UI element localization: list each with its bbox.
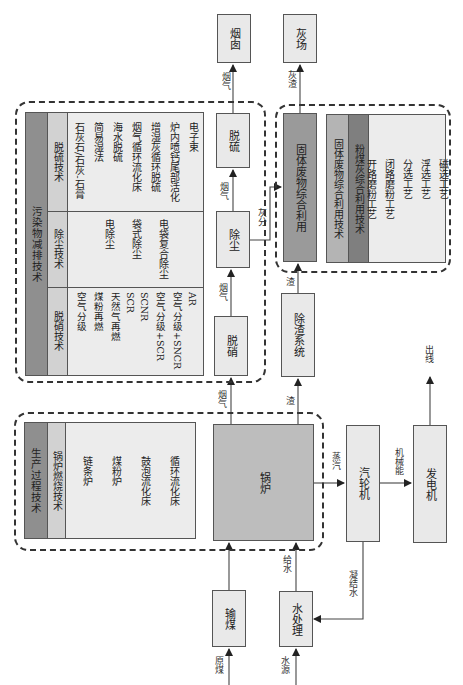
list-item: 袋式除尘 <box>128 219 143 279</box>
ash-yard-box: 灰场 <box>283 14 317 63</box>
coal-transport-box: 输煤 <box>212 590 246 647</box>
list-item: 石灰石/石灰-石膏 <box>71 122 86 202</box>
pollutant-reduction-table: 污染物减排技术 脱硫技术 石灰石/石灰-石膏 简易湿法 海水脱硫 烟气循环流化床… <box>25 112 204 376</box>
steam-label: 蒸汽 <box>330 452 343 470</box>
list-item: AR <box>187 292 198 369</box>
solid-waste-table-title: 固体废物综合利用技术 <box>327 115 349 262</box>
list-item: 炉内喷钙尾部活化 <box>166 122 181 202</box>
flue-gas-label: 烟气 <box>218 182 231 200</box>
output-line-label: 出线 <box>423 345 436 363</box>
list-item: 空气分级+SCR <box>153 292 167 369</box>
water-source-label: 水源 <box>279 656 292 674</box>
list-item: 煤粉炉 <box>109 456 124 506</box>
list-item: 浮选工艺 <box>418 159 433 219</box>
list-item: 简易湿法 <box>90 122 105 202</box>
pollutant-table-title-text: 污染物减排技术 <box>29 206 44 283</box>
mechanical-energy-label: 机械能 <box>393 448 406 475</box>
desulfurization-tech-list: 石灰石/石灰-石膏 简易湿法 海水脱硫 烟气循环流化床 增湿灰循环脱硫 炉内喷钙… <box>68 113 203 211</box>
denitrification-tech-list: 空气分级 煤粉再燃 天然气再燃 SCR SCNR 空气分级+SCR 空气分级+S… <box>68 287 203 375</box>
pollutant-table-title: 污染物减排技术 <box>26 113 48 375</box>
list-item: 电袋复合除尘 <box>155 219 170 279</box>
dedusting-box: 除尘 <box>216 211 250 268</box>
denitrification-tech-header: 脱硝技术 <box>48 287 68 375</box>
dedusting-tech-list: 电除尘 袋式除尘 电袋复合除尘 <box>68 211 203 287</box>
list-item: 循环流化床 <box>167 456 182 506</box>
ash-slag-label: 灰渣 <box>286 70 299 88</box>
fly-ash-tech-list: 开路磨粉工艺 闭路磨粉工艺 分选工艺 浮选工艺 磁选工艺 <box>369 115 445 262</box>
denitrification-box: 脱硝 <box>214 316 248 376</box>
list-item: SCNR <box>139 292 150 369</box>
ash-label: 灰分 <box>256 208 269 226</box>
production-table-title: 生产过程技术 <box>25 423 48 538</box>
generator-box: 发电机 <box>413 425 447 543</box>
list-item: 鼓泡流化床 <box>138 456 153 506</box>
chimney-box: 烟囱 <box>217 14 251 63</box>
desulfurization-tech-header: 脱硫技术 <box>48 113 68 211</box>
list-item: 煤粉再燃 <box>91 292 105 369</box>
list-item: 空气分级+SNCR <box>170 292 184 369</box>
water-treatment-box: 水处理 <box>279 591 313 647</box>
list-item: 电子束 <box>185 122 200 202</box>
list-item: 烟气循环流化床 <box>128 122 143 202</box>
list-item: 天然气再燃 <box>108 292 122 369</box>
boiler-box: 锅炉 <box>213 424 314 541</box>
list-item: 开路磨粉工艺 <box>364 159 379 219</box>
list-item: 增湿灰循环脱硫 <box>147 122 162 202</box>
slag-label: 渣 <box>284 396 297 405</box>
list-item: 分选工艺 <box>400 159 415 219</box>
solid-waste-utilization-box: 固体废物综合利用 <box>283 113 317 262</box>
dedusting-tech-header: 除尘技术 <box>48 211 68 287</box>
feed-water-label: 给水 <box>281 555 294 573</box>
list-item: SCR <box>125 292 136 369</box>
condensate-label: 凝结水 <box>347 570 360 597</box>
list-item: 链条炉 <box>80 456 95 506</box>
solid-waste-utilization-table: 固体废物综合利用技术 粉煤灰综合利用技术 开路磨粉工艺 闭路磨粉工艺 分选工艺 … <box>326 114 446 263</box>
flue-gas-label: 烟气 <box>220 72 233 90</box>
list-item: 电除尘 <box>101 219 116 279</box>
slag-label: 渣 <box>284 277 297 286</box>
list-item: 磁选工艺 <box>436 159 451 219</box>
flue-gas-label: 烟气 <box>217 283 230 301</box>
turbine-box: 汽轮机 <box>346 425 380 542</box>
boiler-combustion-tech-header: 锅炉燃烧技术 <box>48 423 66 538</box>
list-item: 海水脱硫 <box>109 122 124 202</box>
boiler-combustion-tech-list: 链条炉 煤粉炉 鼓泡流化床 循环流化床 <box>66 423 195 538</box>
flue-gas-label: 烟气 <box>216 390 229 408</box>
slag-removal-box: 除渣系统 <box>281 293 315 377</box>
list-item: 空气分级 <box>74 292 88 369</box>
list-item: 闭路磨粉工艺 <box>382 159 397 219</box>
production-process-table: 生产过程技术 锅炉燃烧技术 链条炉 煤粉炉 鼓泡流化床 循环流化床 <box>24 422 196 539</box>
raw-coal-label: 原煤 <box>213 656 226 674</box>
desulfurization-box: 脱硫 <box>216 113 250 168</box>
